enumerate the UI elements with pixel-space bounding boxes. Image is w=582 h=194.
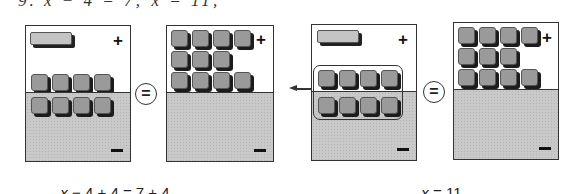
negative-region bbox=[167, 92, 273, 161]
unit-tile bbox=[73, 74, 90, 91]
negative-sign bbox=[397, 148, 409, 151]
negative-region bbox=[454, 89, 558, 159]
unit-tile bbox=[234, 30, 251, 47]
x-tile bbox=[317, 30, 359, 43]
algebra-mat-2: + bbox=[166, 25, 274, 162]
unit-tile bbox=[479, 27, 496, 44]
unit-tile bbox=[521, 27, 538, 44]
problem-header-partial: 9. x − 4 = 7; x = 11; bbox=[18, 0, 221, 11]
equation-rest: − 4 + 4 = 7 + 4 bbox=[68, 184, 170, 194]
unit-tile bbox=[31, 74, 48, 91]
unit-tile bbox=[213, 30, 230, 47]
equation-solution: x = 11 bbox=[413, 167, 462, 194]
unit-tile bbox=[500, 48, 517, 65]
unit-tile bbox=[192, 72, 209, 89]
unit-tile bbox=[94, 74, 111, 91]
negative-unit-tile bbox=[73, 97, 90, 114]
negative-unit-tile bbox=[94, 97, 111, 114]
unit-tile bbox=[192, 51, 209, 68]
unit-tile bbox=[521, 69, 538, 86]
unit-tile bbox=[213, 72, 230, 89]
unit-tile bbox=[479, 69, 496, 86]
algebra-mat-1: + bbox=[25, 25, 131, 162]
positive-sign: + bbox=[542, 29, 552, 46]
unit-tile bbox=[213, 51, 230, 68]
negative-sign bbox=[254, 149, 266, 152]
unit-tile bbox=[234, 72, 251, 89]
unit-tile bbox=[500, 69, 517, 86]
positive-sign: + bbox=[398, 31, 408, 48]
variable: x bbox=[60, 184, 68, 194]
arrow-left-icon bbox=[289, 85, 297, 91]
positive-sign: + bbox=[113, 32, 123, 49]
equals-circle-2: = bbox=[423, 81, 445, 103]
positive-sign: + bbox=[256, 31, 266, 48]
unit-tile bbox=[171, 72, 188, 89]
unit-tile bbox=[192, 30, 209, 47]
negative-unit-tile bbox=[52, 97, 69, 114]
unit-tile bbox=[52, 74, 69, 91]
equation-step-1: x − 4 + 4 = 7 + 4 bbox=[52, 167, 170, 194]
unit-tile bbox=[458, 27, 475, 44]
zero-pair-group bbox=[313, 65, 403, 120]
variable: x bbox=[421, 184, 429, 194]
negative-sign bbox=[539, 147, 551, 150]
algebra-mat-4: + bbox=[453, 22, 559, 160]
unit-tile bbox=[479, 48, 496, 65]
unit-tile bbox=[171, 51, 188, 68]
x-tile bbox=[30, 32, 72, 45]
unit-tile bbox=[458, 48, 475, 65]
algebra-mat-3: + bbox=[311, 24, 417, 161]
negative-region bbox=[26, 92, 130, 161]
negative-unit-tile bbox=[31, 97, 48, 114]
equals-circle-1: = bbox=[135, 83, 157, 105]
negative-sign bbox=[111, 149, 123, 152]
unit-tile bbox=[171, 30, 188, 47]
unit-tile bbox=[458, 69, 475, 86]
unit-tile bbox=[500, 27, 517, 44]
equation-rest: = 11 bbox=[429, 184, 462, 194]
